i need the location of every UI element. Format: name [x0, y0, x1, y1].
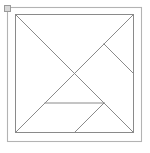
tangram-canvas[interactable]: Tangram: [0, 0, 150, 153]
small-triangle-cut: [75, 103, 105, 133]
selection-resize-handle[interactable]: [4, 5, 11, 12]
tangram-figure: [0, 0, 150, 153]
square-upper-left: [75, 44, 105, 74]
tangram-line-group: [16, 15, 134, 133]
outer-frame: [8, 8, 142, 142]
square-upper-right: [104, 44, 134, 74]
